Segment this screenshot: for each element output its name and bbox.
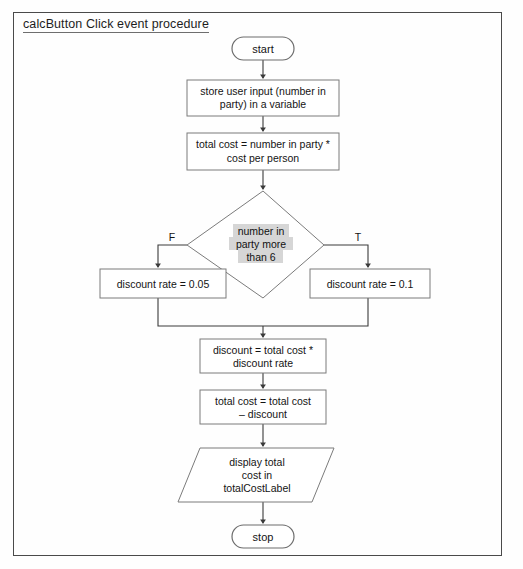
- node-discount-rate-false[interactable]: discount rate = 0.05: [100, 269, 226, 298]
- node-store-input[interactable]: store user input (number in party) in a …: [187, 80, 339, 116]
- display-output-line-1: display total: [229, 456, 284, 468]
- node-display-output[interactable]: display total cost in totalCostLabel: [178, 448, 334, 502]
- start-label: start: [252, 43, 273, 55]
- decision-line-2: party more: [236, 238, 286, 250]
- discount-line-2: discount rate: [233, 357, 293, 369]
- node-discount[interactable]: discount = total cost * discount rate: [200, 339, 326, 373]
- connector-decision-false: [158, 245, 187, 267]
- discount-rate-false-label: discount rate = 0.05: [117, 278, 210, 290]
- decision-line-1: number in: [238, 225, 285, 237]
- connector-decision-true: [324, 245, 368, 267]
- discount-line-1: discount = total cost *: [213, 344, 313, 356]
- node-start[interactable]: start: [232, 37, 294, 60]
- node-total-cost-minus[interactable]: total cost = total cost – discount: [200, 390, 326, 424]
- display-output-line-2: cost in: [242, 469, 273, 481]
- flowchart-canvas: start store user input (number in party)…: [0, 0, 523, 569]
- total-cost-line-1: total cost = number in party *: [196, 138, 330, 150]
- store-input-line-2: party) in a variable: [220, 98, 307, 110]
- decision-line-3: than 6: [246, 251, 275, 263]
- node-stop[interactable]: stop: [232, 525, 294, 548]
- branch-label-false: F: [169, 231, 175, 243]
- total-cost-minus-line-2: – discount: [239, 408, 287, 420]
- branch-label-true: T: [355, 231, 362, 243]
- store-input-line-1: store user input (number in: [200, 85, 326, 97]
- node-total-cost[interactable]: total cost = number in party * cost per …: [187, 133, 339, 170]
- stop-label: stop: [253, 531, 274, 543]
- display-output-line-3: totalCostLabel: [223, 482, 290, 494]
- connector-merge-false: [158, 298, 263, 326]
- connector-merge-true: [263, 298, 368, 326]
- node-discount-rate-true[interactable]: discount rate = 0.1: [310, 269, 430, 298]
- flowchart-page: calcButton Click event procedure start: [0, 0, 523, 569]
- total-cost-line-2: cost per person: [227, 152, 300, 164]
- total-cost-minus-line-1: total cost = total cost: [215, 395, 311, 407]
- discount-rate-true-label: discount rate = 0.1: [327, 278, 414, 290]
